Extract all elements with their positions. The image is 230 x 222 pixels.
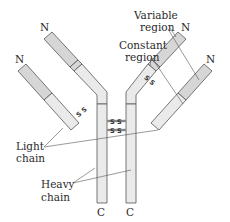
antibody-diagram: S S S S S S S S N N N N C C Variable reg…: [0, 0, 230, 222]
c-terminus-right: C: [126, 206, 134, 218]
heavy-chain-label-line2: chain: [41, 191, 70, 203]
right-light-constant-segment: [151, 93, 186, 130]
c-terminus-left: C: [97, 206, 105, 218]
left-light-variable-segment: [18, 64, 52, 100]
light-leader-1: [44, 128, 63, 147]
antibody-svg: S S S S S S S S N N N N C C Variable reg…: [0, 0, 230, 222]
light-heavy-disulfide-right: S S: [142, 74, 156, 88]
disulfide-label-right: S S: [142, 74, 156, 88]
n-terminus-left-outer: N: [15, 53, 24, 65]
disulfide-hinge-top: S S: [110, 118, 122, 126]
left-heavy-variable-segment: [44, 32, 78, 67]
n-terminus-left-inner: N: [40, 21, 49, 33]
light-heavy-disulfide-left: S S: [75, 105, 89, 119]
left-heavy-stem: [97, 104, 107, 203]
light-chain-label-line1: Light: [16, 140, 45, 152]
disulfide-label-left: S S: [75, 105, 89, 119]
right-heavy-stem: [126, 104, 136, 203]
variable-region-label-line1: Variable: [133, 9, 178, 21]
left-light-constant-segment: [44, 93, 79, 130]
left-heavy-constant-arm: [74, 64, 107, 104]
heavy-heavy-disulfide: S S S S: [107, 118, 126, 135]
light-chain-label-line2: chain: [16, 152, 45, 164]
heavy-chain-label-line1: Heavy: [41, 178, 75, 190]
constant-region-label-line1: Constant: [119, 39, 168, 51]
disulfide-hinge-bottom: S S: [110, 127, 122, 135]
left-light-chain: [18, 64, 79, 130]
right-light-chain: [151, 64, 212, 130]
n-terminus-right-outer: N: [206, 53, 215, 65]
right-light-variable-segment: [178, 64, 212, 100]
n-terminus-right-inner: N: [181, 21, 190, 33]
